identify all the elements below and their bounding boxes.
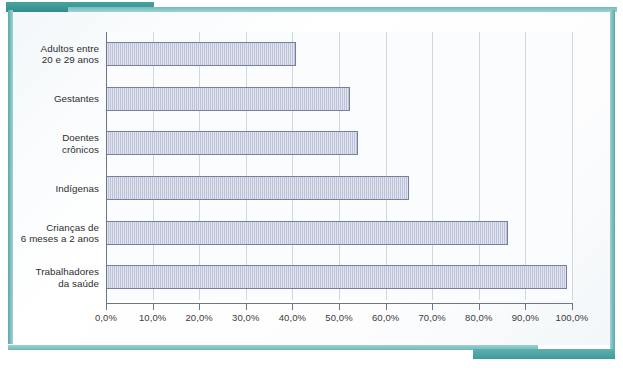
x-tick-label: 90,0%: [512, 312, 539, 323]
bar: [106, 87, 350, 111]
figure-page: Adultos entre 20 e 29 anosGestantesDoent…: [0, 0, 623, 371]
bar-row: [106, 32, 572, 77]
bar-row: [106, 255, 572, 300]
chart-plot-wrapper: Adultos entre 20 e 29 anosGestantesDoent…: [13, 12, 610, 345]
category-label: Crianças de 6 meses a 2 anos: [21, 222, 99, 245]
decorative-rule-right: [610, 10, 615, 350]
bar: [106, 265, 567, 289]
x-tick-20: [199, 304, 200, 310]
x-tick-10: [153, 304, 154, 310]
x-tick-label: 20,0%: [185, 312, 212, 323]
x-tick-label: 30,0%: [232, 312, 259, 323]
category-label: Indígenas: [56, 183, 99, 195]
category-axis-labels: Adultos entre 20 e 29 anosGestantesDoent…: [13, 32, 99, 300]
decorative-rule-bottom: [8, 345, 538, 350]
bar: [106, 131, 358, 155]
x-tick-label: 100,0%: [556, 312, 589, 323]
gridline-100: [572, 32, 573, 300]
x-tick-label: 80,0%: [465, 312, 492, 323]
x-tick-0: [106, 304, 107, 310]
bar-row: [106, 166, 572, 211]
category-label: Gestantes: [54, 93, 99, 105]
decorative-band-bottom-right: [473, 349, 615, 359]
bar-row: [106, 121, 572, 166]
category-label: Doentes crônicos: [62, 132, 99, 155]
y-axis-line: [106, 32, 107, 304]
bar-row: [106, 77, 572, 122]
x-tick-label: 40,0%: [279, 312, 306, 323]
category-label: Adultos entre 20 e 29 anos: [41, 43, 99, 66]
category-label: Trabalhadores da saúde: [36, 266, 99, 289]
x-tick-30: [246, 304, 247, 310]
x-tick-label: 10,0%: [139, 312, 166, 323]
x-tick-40: [292, 304, 293, 310]
bar: [106, 42, 296, 66]
x-tick-label: 50,0%: [325, 312, 352, 323]
bar: [106, 221, 508, 245]
x-tick-70: [432, 304, 433, 310]
x-tick-90: [525, 304, 526, 310]
chart-card: Adultos entre 20 e 29 anosGestantesDoent…: [13, 12, 610, 345]
bar-row: [106, 211, 572, 256]
x-tick-label: 0,0%: [95, 312, 117, 323]
x-tick-100: [572, 304, 573, 310]
x-tick-50: [339, 304, 340, 310]
x-tick-label: 60,0%: [372, 312, 399, 323]
x-tick-label: 70,0%: [418, 312, 445, 323]
x-tick-80: [479, 304, 480, 310]
bar: [106, 176, 409, 200]
x-tick-60: [386, 304, 387, 310]
plot-area: [106, 32, 572, 300]
